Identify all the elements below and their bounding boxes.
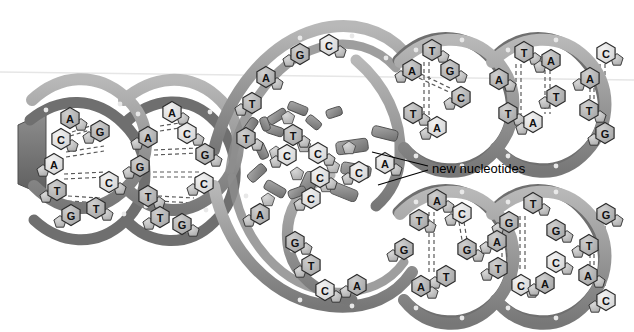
base-hexagon-icon <box>311 167 329 188</box>
nucleotide-base-t: T <box>284 125 310 148</box>
base-hexagon-icon <box>163 102 181 123</box>
base-hexagon-icon <box>286 232 304 253</box>
nucleotide-base-c: C <box>309 143 335 166</box>
nucleotide-base-g: G <box>387 239 413 262</box>
base-hexagon-icon <box>547 220 565 241</box>
base-hexagon-icon <box>316 280 334 301</box>
nucleotide-base-a: A <box>528 273 554 296</box>
base-hexagon-icon <box>348 275 366 296</box>
base-hexagon-icon <box>291 44 309 65</box>
nucleotide-base-a: A <box>243 204 269 227</box>
base-hexagon-icon <box>499 103 517 124</box>
base-hexagon-icon <box>139 127 157 148</box>
nucleotide-base-c: C <box>547 252 573 275</box>
base-hexagon-icon <box>302 188 320 209</box>
base-hexagon-icon <box>515 42 533 63</box>
base-hexagon-icon <box>404 103 422 124</box>
base-hexagon-icon <box>52 129 70 150</box>
nucleotide-base-t: T <box>572 235 598 258</box>
nucleotide-base-t: T <box>404 103 430 126</box>
nucleotide-base-g: G <box>441 60 467 83</box>
callout-label-new-nucleotides: new nucleotides <box>432 161 526 176</box>
base-hexagon-icon <box>579 265 597 286</box>
base-hexagon-icon <box>542 50 560 71</box>
base-hexagon-icon <box>257 67 275 88</box>
base-hexagon-icon <box>458 239 476 260</box>
base-hexagon-icon <box>61 108 79 129</box>
base-hexagon-icon <box>488 231 506 252</box>
dna-diagram-canvas: AGCACTTGAACGGCTTGCGATTCAGTCATCCCACTAGCTA… <box>0 0 634 332</box>
nucleotide-base-t: T <box>410 210 436 233</box>
base-hexagon-icon <box>524 112 542 133</box>
nucleotide-base-a: A <box>61 108 87 131</box>
base-hexagon-icon <box>512 275 530 296</box>
base-hexagon-icon <box>490 69 508 90</box>
base-hexagon-icon <box>597 204 615 225</box>
nucleotide-base-g: G <box>458 239 484 262</box>
base-hexagon-icon <box>45 154 63 175</box>
base-hexagon-icon <box>453 203 471 224</box>
base-hexagon-icon <box>309 143 327 164</box>
base-hexagon-icon <box>423 40 441 61</box>
nucleotide-base-g: G <box>173 214 199 237</box>
nucleotide-base-c: C <box>597 43 623 66</box>
base-hexagon-icon <box>580 100 598 121</box>
base-hexagon-icon <box>251 204 269 225</box>
base-hexagon-icon <box>395 239 413 260</box>
base-hexagon-icon <box>100 172 118 193</box>
base-hexagon-icon <box>284 125 302 146</box>
nucleotide-base-g: G <box>547 220 573 243</box>
base-hexagon-icon <box>547 86 565 107</box>
base-hexagon-icon <box>91 121 109 142</box>
base-hexagon-icon <box>500 212 518 233</box>
base-hexagon-icon <box>173 214 191 235</box>
base-hexagon-icon <box>441 60 459 81</box>
nucleotide-base-c: C <box>444 87 470 110</box>
nucleotide-base-t: T <box>481 258 507 281</box>
base-hexagon-icon <box>489 258 507 279</box>
nucleotide-base-t: T <box>539 86 565 109</box>
base-hexagon-icon <box>580 235 598 256</box>
base-hexagon-icon <box>243 93 261 114</box>
base-hexagon-icon <box>428 190 446 211</box>
base-hexagon-icon <box>237 128 255 149</box>
nucleotide-base-t: T <box>429 266 455 289</box>
base-hexagon-icon <box>62 205 80 226</box>
base-hexagon-icon <box>320 35 338 56</box>
base-hexagon-icon <box>302 255 320 276</box>
base-hexagon-icon <box>350 162 368 183</box>
base-hexagon-icon <box>178 123 196 144</box>
base-hexagon-icon <box>278 145 296 166</box>
nucleotide-base-c: C <box>100 172 126 195</box>
base-hexagon-icon <box>524 193 542 214</box>
base-hexagon-icon <box>581 68 599 89</box>
base-hexagon-icon <box>196 144 214 165</box>
base-group-daughter_lower_h3: GTAC <box>572 204 623 313</box>
base-hexagon-icon <box>597 43 615 64</box>
base-hexagon-icon <box>597 290 615 311</box>
base-hexagon-icon <box>131 156 149 177</box>
base-hexagon-icon <box>547 252 565 273</box>
nucleotide-base-c: C <box>178 123 204 146</box>
base-hexagon-icon <box>403 60 421 81</box>
base-hexagon-icon <box>151 207 169 228</box>
base-hexagon-icon <box>452 87 470 108</box>
base-hexagon-icon <box>195 173 213 194</box>
base-hexagon-icon <box>139 186 157 207</box>
dna-replication-figure: AGCACTTGAACGGCTTGCGATTCAGTCATCCCACTAGCTA… <box>0 0 634 332</box>
base-hexagon-icon <box>428 117 446 138</box>
base-hexagon-icon <box>410 210 428 231</box>
base-hexagon-icon <box>596 123 614 144</box>
base-hexagon-icon <box>536 273 554 294</box>
base-hexagon-icon <box>87 198 105 219</box>
base-hexagon-icon <box>437 266 455 287</box>
base-hexagon-icon <box>48 180 66 201</box>
base-hexagon-icon <box>412 276 430 297</box>
